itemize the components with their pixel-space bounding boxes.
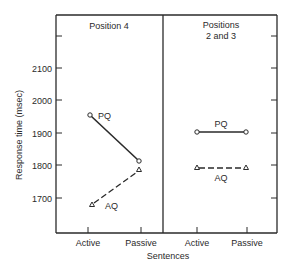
panel2-title-line2: 2 and 3 bbox=[206, 31, 236, 41]
ytick-label-1800: 1800 bbox=[32, 161, 52, 171]
ytick-label-1900: 1900 bbox=[32, 129, 52, 139]
p2-series-aq bbox=[195, 165, 249, 170]
y-axis-label: Response time (msec) bbox=[14, 90, 24, 180]
left-y-ticks bbox=[56, 36, 62, 198]
p2-aq-label: AQ bbox=[214, 173, 227, 183]
p1-aq-label: AQ bbox=[105, 201, 118, 211]
p2-series-pq bbox=[195, 130, 248, 134]
panel2-title-line1: Positions bbox=[203, 20, 240, 30]
triangle-marker-icon bbox=[90, 202, 95, 207]
ytick-label-2100: 2100 bbox=[32, 64, 52, 74]
circle-marker-icon bbox=[137, 159, 141, 163]
xtick-label-p1-active: Active bbox=[76, 238, 101, 248]
circle-marker-icon bbox=[88, 113, 92, 117]
ytick-label-2000: 2000 bbox=[32, 96, 52, 106]
right-y-ticks bbox=[271, 36, 277, 198]
chart: 2100 2000 1900 1800 1700 Response time (… bbox=[0, 0, 293, 268]
circle-marker-icon bbox=[244, 130, 248, 134]
xtick-label-p1-passive: Passive bbox=[125, 238, 157, 248]
triangle-marker-icon bbox=[195, 165, 200, 170]
p1-pq-label: PQ bbox=[98, 111, 111, 121]
p2-pq-label: PQ bbox=[214, 119, 227, 129]
xtick-label-p2-active: Active bbox=[185, 238, 210, 248]
ytick-label-1700: 1700 bbox=[32, 194, 52, 204]
xtick-label-p2-passive: Passive bbox=[231, 238, 263, 248]
p1-series-pq bbox=[88, 113, 141, 163]
x-axis-label: Sentences bbox=[147, 251, 190, 261]
panel1-title: Position 4 bbox=[89, 21, 129, 31]
triangle-marker-icon bbox=[137, 167, 142, 172]
plot-frame bbox=[56, 15, 277, 233]
circle-marker-icon bbox=[195, 130, 199, 134]
x-ticks bbox=[88, 227, 247, 233]
triangle-marker-icon bbox=[244, 165, 249, 170]
